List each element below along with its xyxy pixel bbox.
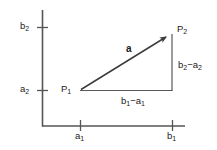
vector-label-a: a — [126, 44, 132, 54]
y-axis-tick-label-a2: a2 — [20, 84, 29, 94]
y-tick-b2-subscript: 2 — [25, 25, 29, 32]
x-axis-tick-label-b1: b1 — [167, 131, 176, 141]
p1-subscript: 1 — [67, 88, 71, 95]
x-tick-b1-subscript: 1 — [172, 135, 176, 142]
dy-b-subscript: 2 — [183, 64, 187, 71]
component-label-vertical: b2−a2 — [178, 60, 202, 70]
component-label-horizontal: b1−a1 — [121, 96, 145, 106]
x-tick-a1-subscript: 1 — [80, 135, 84, 142]
diagram-canvas — [0, 0, 217, 150]
y-axis-tick-label-b2: b2 — [20, 21, 29, 31]
dx-a-subscript: 1 — [141, 100, 145, 107]
p2-subscript: 2 — [183, 28, 187, 35]
vector-diagram-figure: b2 a2 a1 b1 P1 P2 a b1−a1 b2−a2 — [0, 0, 217, 150]
point-label-p1: P1 — [61, 84, 71, 94]
dy-a-subscript: 2 — [198, 64, 202, 71]
y-tick-a2-subscript: 2 — [25, 88, 29, 95]
x-axis-tick-label-a1: a1 — [75, 131, 84, 141]
vector-a-arrow — [81, 37, 166, 90]
dx-b-subscript: 1 — [126, 100, 130, 107]
point-label-p2: P2 — [177, 24, 187, 34]
